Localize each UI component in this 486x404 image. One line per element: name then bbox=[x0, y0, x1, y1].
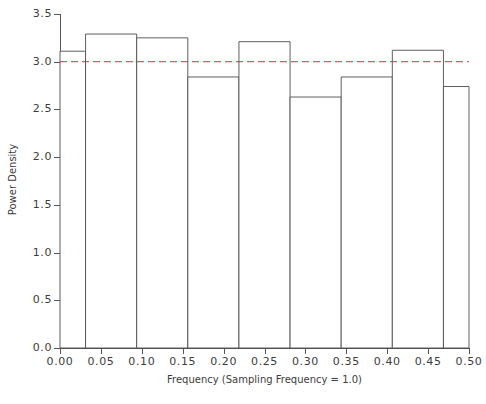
plot-area bbox=[60, 14, 469, 348]
bar bbox=[86, 34, 137, 348]
x-axis-tick-label: 0.20 bbox=[201, 356, 247, 367]
x-axis-tick-label: 0.25 bbox=[242, 356, 288, 367]
x-axis-tick-label: 0.40 bbox=[364, 356, 410, 367]
x-axis-tick-label: 0.45 bbox=[405, 356, 451, 367]
x-axis-tick-label: 0.15 bbox=[160, 356, 206, 367]
x-axis-tick-label: 0.10 bbox=[119, 356, 165, 367]
y-axis-tick-label: 1.5 bbox=[6, 199, 52, 210]
x-axis-tick-label: 0.05 bbox=[78, 356, 124, 367]
x-axis-tick bbox=[224, 348, 225, 354]
x-axis-tick-label: 0.30 bbox=[282, 356, 328, 367]
bar bbox=[239, 42, 290, 348]
x-axis-tick bbox=[469, 348, 470, 354]
y-axis-tick-label: 0.5 bbox=[6, 294, 52, 305]
bar bbox=[392, 50, 443, 348]
x-axis-tick bbox=[387, 348, 388, 354]
x-axis-tick bbox=[305, 348, 306, 354]
x-axis-tick bbox=[346, 348, 347, 354]
y-axis-tick-label: 0.0 bbox=[6, 342, 52, 353]
bar bbox=[188, 77, 239, 348]
x-axis-tick bbox=[142, 348, 143, 354]
x-axis-tick bbox=[101, 348, 102, 354]
y-axis-tick-label: 2.0 bbox=[6, 151, 52, 162]
bar bbox=[443, 87, 469, 348]
bar bbox=[341, 77, 392, 348]
x-axis-tick-label: 0.35 bbox=[323, 356, 369, 367]
x-axis-tick bbox=[428, 348, 429, 354]
bar bbox=[290, 97, 341, 348]
bar bbox=[60, 51, 86, 348]
y-axis-tick-label: 1.0 bbox=[6, 247, 52, 258]
x-axis-title: Frequency (Sampling Frequency = 1.0) bbox=[60, 374, 469, 385]
x-axis-tick bbox=[183, 348, 184, 354]
x-axis-tick-label: 0.00 bbox=[37, 356, 83, 367]
bar bbox=[137, 38, 188, 348]
y-axis-tick-labels: 0.00.51.01.52.02.53.03.5 bbox=[0, 0, 52, 404]
y-axis-tick-label: 3.5 bbox=[6, 8, 52, 19]
y-axis-tick-label: 3.0 bbox=[6, 56, 52, 67]
y-axis-tick-label: 2.5 bbox=[6, 103, 52, 114]
x-axis-tick bbox=[60, 348, 61, 354]
x-axis-tick-label: 0.50 bbox=[446, 356, 486, 367]
bars-and-reference-line bbox=[60, 14, 469, 348]
x-axis-tick bbox=[265, 348, 266, 354]
